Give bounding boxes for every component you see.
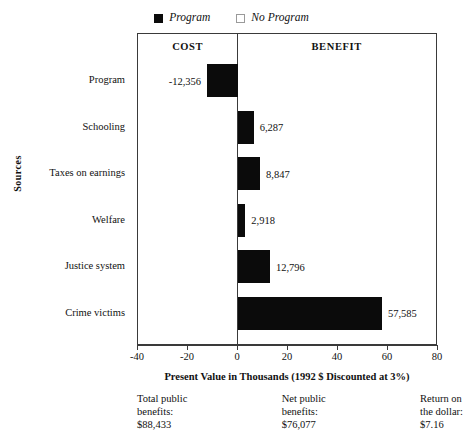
summary-footer: Total publicbenefits:$88,433Net publicbe… (137, 392, 463, 431)
category-label-taxes-on-earnings: Taxes on earnings (0, 156, 131, 189)
bar-value-label: 2,918 (251, 215, 275, 226)
summary-value: $88,433 (137, 418, 187, 431)
summary-title-line2: the dollar: (420, 405, 463, 418)
x-tick (287, 345, 288, 350)
x-tick-label: 20 (282, 351, 293, 362)
bar-row: 2,918 (138, 204, 436, 237)
legend-item-no-program: No Program (236, 12, 308, 24)
legend-item-program: Program (154, 12, 210, 24)
summary-title-line1: Return on (420, 392, 463, 405)
x-tick (337, 345, 338, 350)
bar-row: -12,356 (138, 64, 436, 97)
bar-welfare (238, 204, 245, 237)
bar-schooling (238, 111, 254, 144)
summary-title-line2: benefits: (282, 405, 326, 418)
bar-row: 12,796 (138, 250, 436, 283)
summary-value: $7.16 (420, 418, 463, 431)
bar-value-label: 8,847 (266, 168, 290, 179)
summary-title-line1: Total public (137, 392, 187, 405)
category-label-welfare: Welfare (0, 203, 131, 236)
bar-row: 57,585 (138, 297, 436, 330)
summary-block-0: Total publicbenefits:$88,433 (137, 392, 187, 431)
x-tick-label: 80 (432, 351, 443, 362)
summary-block-1: Net publicbenefits:$76,077 (282, 392, 326, 431)
x-tick (137, 345, 138, 350)
plot-area: COST BENEFIT -12,3566,2878,8472,91812,79… (137, 33, 437, 345)
legend-label-no-program: No Program (251, 12, 308, 24)
x-tick (187, 345, 188, 350)
empty-square-icon (236, 14, 245, 23)
x-tick (387, 345, 388, 350)
category-label-program: Program (0, 63, 131, 96)
bar-series: -12,3566,2878,8472,91812,79657,585 (138, 34, 436, 344)
summary-value: $76,077 (282, 418, 326, 431)
x-tick (437, 345, 438, 350)
bar-program (207, 64, 238, 97)
bar-taxes-on-earnings (238, 157, 260, 190)
x-axis: -40-20020406080 (137, 345, 437, 346)
bar-value-label: 12,796 (276, 261, 305, 272)
chart-legend: Program No Program (0, 10, 463, 26)
bar-value-label: 6,287 (260, 122, 284, 133)
category-label-schooling: Schooling (0, 110, 131, 143)
category-axis-labels: ProgramSchoolingTaxes on earningsWelfare… (0, 33, 131, 345)
bar-row: 6,287 (138, 111, 436, 144)
filled-square-icon (154, 14, 163, 23)
x-tick-label: -20 (180, 351, 194, 362)
x-tick (237, 345, 238, 350)
summary-title-line1: Net public (282, 392, 326, 405)
category-label-crime-victims: Crime victims (0, 296, 131, 329)
summary-block-2: Return onthe dollar:$7.16 (420, 392, 463, 431)
x-tick-label: 40 (332, 351, 343, 362)
bar-row: 8,847 (138, 157, 436, 190)
x-tick-label: 60 (382, 351, 393, 362)
bar-value-label: 57,585 (388, 308, 417, 319)
summary-title-line2: benefits: (137, 405, 187, 418)
bar-crime-victims (238, 297, 382, 330)
category-label-justice-system: Justice system (0, 249, 131, 282)
bar-justice-system (238, 250, 270, 283)
x-axis-title: Present Value in Thousands (1992 $ Disco… (137, 371, 437, 382)
bar-value-label: -12,356 (169, 75, 201, 86)
x-tick-label: -40 (130, 351, 144, 362)
legend-label-program: Program (169, 12, 210, 24)
x-tick-label: 0 (234, 351, 239, 362)
